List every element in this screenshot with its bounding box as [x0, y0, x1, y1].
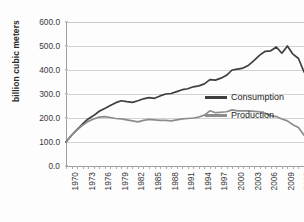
x-tick-label: 2003 [253, 172, 263, 190]
x-tick-mark [83, 166, 84, 169]
x-tick-mark [127, 166, 128, 169]
y-tick-label: 200.0 [20, 113, 60, 123]
x-tick-mark [188, 166, 189, 169]
x-tick-label: 1997 [219, 172, 229, 190]
x-tick-mark [66, 166, 67, 169]
x-tick-mark [232, 166, 233, 169]
y-tick-label: 0.0 [20, 161, 60, 171]
x-tick-mark [249, 166, 250, 169]
x-tick-mark [77, 166, 78, 169]
x-tick-mark [254, 166, 255, 169]
x-tick-mark [260, 166, 261, 169]
x-tick-mark [160, 166, 161, 169]
x-tick-mark [238, 166, 239, 169]
x-tick-mark [193, 166, 194, 169]
x-tick-label: 1988 [170, 172, 180, 190]
legend-label-production: Production [231, 110, 274, 120]
x-tick-mark [94, 166, 95, 169]
x-tick-label: 2009 [286, 172, 296, 190]
x-tick-label: 1991 [186, 172, 196, 190]
x-tick-mark [166, 166, 167, 169]
x-tick-mark [204, 166, 205, 169]
x-tick-mark [72, 166, 73, 169]
x-tick-mark [171, 166, 172, 169]
x-tick-mark [155, 166, 156, 169]
y-tick-label: 600.0 [20, 17, 60, 27]
y-tick-label: 300.0 [20, 89, 60, 99]
x-tick-mark [215, 166, 216, 169]
x-tick-mark [221, 166, 222, 169]
x-tick-label: 2006 [269, 172, 279, 190]
x-tick-label: 1979 [120, 172, 130, 190]
x-tick-mark [265, 166, 266, 169]
y-axis-tick-labels: 0.0100.0200.0300.0400.0500.0600.0 [22, 0, 64, 222]
x-tick-mark [182, 166, 183, 169]
x-tick-label: 1982 [136, 172, 146, 190]
x-tick-label: 2000 [236, 172, 246, 190]
chart-legend: Consumption Production [205, 88, 304, 124]
x-tick-mark [227, 166, 228, 169]
x-tick-mark [243, 166, 244, 169]
x-tick-mark [293, 166, 294, 169]
x-axis-tick-labels: 1970197319761979198219851988199119941997… [66, 166, 304, 222]
x-tick-mark [99, 166, 100, 169]
legend-swatch-production [205, 114, 227, 117]
x-tick-mark [199, 166, 200, 169]
x-tick-mark [132, 166, 133, 169]
x-tick-label: 1976 [103, 172, 113, 190]
x-tick-mark [121, 166, 122, 169]
legend-swatch-consumption [205, 96, 227, 99]
gas-consumption-production-line-chart: billion cubic meters 0.0100.0200.0300.04… [0, 0, 304, 222]
legend-label-consumption: Consumption [231, 92, 284, 102]
x-tick-label: 1985 [153, 172, 163, 190]
x-tick-mark [276, 166, 277, 169]
x-tick-mark [138, 166, 139, 169]
legend-item-production: Production [205, 106, 304, 124]
x-tick-label: 1994 [203, 172, 213, 190]
x-tick-label: 1970 [70, 172, 80, 190]
legend-item-consumption: Consumption [205, 88, 304, 106]
y-tick-label: 400.0 [20, 65, 60, 75]
x-tick-mark [298, 166, 299, 169]
y-tick-label: 500.0 [20, 41, 60, 51]
x-tick-mark [287, 166, 288, 169]
x-tick-mark [110, 166, 111, 169]
x-tick-mark [88, 166, 89, 169]
x-tick-mark [210, 166, 211, 169]
x-tick-mark [143, 166, 144, 169]
x-tick-mark [116, 166, 117, 169]
x-tick-mark [282, 166, 283, 169]
x-tick-label: 2012 [302, 172, 304, 190]
y-tick-label: 100.0 [20, 137, 60, 147]
x-tick-label: 1973 [87, 172, 97, 190]
x-tick-mark [271, 166, 272, 169]
x-tick-mark [105, 166, 106, 169]
x-tick-mark [177, 166, 178, 169]
x-tick-mark [149, 166, 150, 169]
